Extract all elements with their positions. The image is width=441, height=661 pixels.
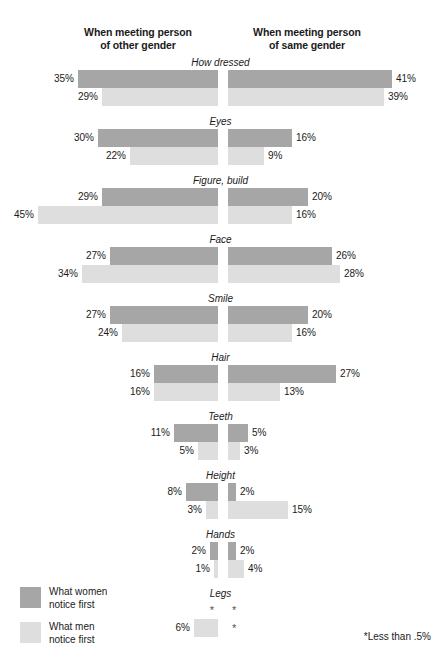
legend-swatch-men xyxy=(20,622,41,643)
bar-band-men: 24%16% xyxy=(0,324,441,342)
bar-band-men: 22%9% xyxy=(0,147,441,165)
diverging-bar-chart: How dressed35%41%29%39%Eyes30%16%22%9%Fi… xyxy=(0,56,441,646)
bar-value-women-other_gender: 27% xyxy=(72,247,106,265)
bar-band-women: 29%20% xyxy=(0,188,441,206)
chart-row: Smile27%20%24%16% xyxy=(0,292,441,342)
bar-value-men-other_gender: 5% xyxy=(160,442,194,460)
bar-value-men-same_gender: 16% xyxy=(296,206,330,224)
bar-women-same_gender xyxy=(228,483,236,501)
bar-value-men-other_gender: 16% xyxy=(116,383,150,401)
bar-value-men-same_gender: 16% xyxy=(296,324,330,342)
column-header-same-gender-line2: of same gender xyxy=(227,39,387,52)
bar-band-women: 27%26% xyxy=(0,247,441,265)
bar-value-men-other_gender: 3% xyxy=(168,501,202,519)
legend-item-women: What women notice first xyxy=(20,586,160,612)
bar-value-men-other_gender: 45% xyxy=(0,206,34,224)
bar-men-same_gender xyxy=(228,206,292,224)
bar-band-men: 16%13% xyxy=(0,383,441,401)
bar-value-men-other_gender: 1% xyxy=(176,560,210,578)
legend-label-men-line1: What men xyxy=(49,621,95,632)
legend-label-women-line2: notice first xyxy=(49,599,95,610)
chart-footnote: *Less than .5% xyxy=(364,631,431,642)
column-header-same-gender: When meeting person of same gender xyxy=(227,26,387,51)
bar-men-same_gender xyxy=(228,88,384,106)
bar-value-men-same_gender: 3% xyxy=(244,442,278,460)
bar-value-women-same_gender: 41% xyxy=(396,70,430,88)
bar-women-other_gender xyxy=(102,188,218,206)
bar-value-men-same_gender: 13% xyxy=(284,383,318,401)
bar-value-men-other_gender: 22% xyxy=(92,147,126,165)
bar-men-other_gender xyxy=(38,206,218,224)
row-category-label: Teeth xyxy=(0,410,441,424)
bar-value-men-other_gender: 34% xyxy=(44,265,78,283)
bar-men-other_gender xyxy=(198,442,218,460)
bar-band-men: 29%39% xyxy=(0,88,441,106)
bar-value-women-other_gender: * xyxy=(180,601,214,619)
bar-men-other_gender xyxy=(102,88,218,106)
bar-value-women-other_gender: 27% xyxy=(72,306,106,324)
bar-value-women-same_gender: 26% xyxy=(336,247,370,265)
row-category-label: Smile xyxy=(0,292,441,306)
chart-legend: What women notice first What men notice … xyxy=(20,586,160,656)
legend-label-men-line2: notice first xyxy=(49,634,95,645)
row-category-label: Hair xyxy=(0,351,441,365)
bar-value-women-same_gender: 5% xyxy=(252,424,286,442)
chart-row: Teeth11%5%5%3% xyxy=(0,410,441,460)
legend-label-women-line1: What women xyxy=(49,586,107,597)
bar-women-same_gender xyxy=(228,306,308,324)
bar-men-same_gender xyxy=(228,560,244,578)
column-header-same-gender-line1: When meeting person xyxy=(227,26,387,39)
bar-value-women-other_gender: 16% xyxy=(116,365,150,383)
bar-women-other_gender xyxy=(98,129,218,147)
bar-value-women-same_gender: 20% xyxy=(312,306,346,324)
bar-men-same_gender xyxy=(228,501,288,519)
chart-row: Height8%2%3%15% xyxy=(0,469,441,519)
bar-value-men-other_gender: 29% xyxy=(64,88,98,106)
bar-women-same_gender xyxy=(228,542,236,560)
bar-men-other_gender xyxy=(122,324,218,342)
bar-men-same_gender xyxy=(228,265,340,283)
bar-band-women: 35%41% xyxy=(0,70,441,88)
bar-men-other_gender xyxy=(154,383,218,401)
bar-band-men: 45%16% xyxy=(0,206,441,224)
bar-value-men-other_gender: 24% xyxy=(84,324,118,342)
bar-band-men: 5%3% xyxy=(0,442,441,460)
column-header-other-gender: When meeting person of other gender xyxy=(58,26,218,51)
bar-men-same_gender xyxy=(228,147,264,165)
bar-value-women-same_gender: 16% xyxy=(296,129,330,147)
bar-women-same_gender xyxy=(228,188,308,206)
bar-band-women: 27%20% xyxy=(0,306,441,324)
legend-item-men: What men notice first xyxy=(20,621,160,647)
bar-women-same_gender xyxy=(228,70,392,88)
bar-men-other_gender xyxy=(82,265,218,283)
bar-women-other_gender xyxy=(174,424,218,442)
bar-value-men-same_gender: 9% xyxy=(268,147,302,165)
chart-row: How dressed35%41%29%39% xyxy=(0,56,441,106)
chart-row: Hair16%27%16%13% xyxy=(0,351,441,401)
row-category-label: Height xyxy=(0,469,441,483)
bar-value-women-other_gender: 30% xyxy=(60,129,94,147)
bar-value-women-other_gender: 35% xyxy=(40,70,74,88)
legend-swatch-women xyxy=(20,587,41,608)
bar-women-other_gender xyxy=(110,306,218,324)
bar-value-women-other_gender: 8% xyxy=(148,483,182,501)
chart-row: Face27%26%34%28% xyxy=(0,233,441,283)
column-header-other-gender-line1: When meeting person xyxy=(58,26,218,39)
bar-band-men: 1%4% xyxy=(0,560,441,578)
bar-value-men-same_gender: 28% xyxy=(344,265,378,283)
chart-row: Figure, build29%20%45%16% xyxy=(0,174,441,224)
row-category-label: Eyes xyxy=(0,115,441,129)
bar-band-women: 11%5% xyxy=(0,424,441,442)
bar-value-women-other_gender: 29% xyxy=(64,188,98,206)
bar-men-same_gender xyxy=(228,383,280,401)
bar-value-women-same_gender: 20% xyxy=(312,188,346,206)
row-category-label: Figure, build xyxy=(0,174,441,188)
bar-women-other_gender xyxy=(154,365,218,383)
legend-label-women: What women notice first xyxy=(49,585,159,611)
bar-value-men-other_gender: 6% xyxy=(156,619,190,637)
bar-value-women-same_gender: * xyxy=(232,601,266,619)
bar-band-women: 30%16% xyxy=(0,129,441,147)
bar-men-other_gender xyxy=(206,501,218,519)
bar-value-women-same_gender: 2% xyxy=(240,542,274,560)
row-category-label: How dressed xyxy=(0,56,441,70)
